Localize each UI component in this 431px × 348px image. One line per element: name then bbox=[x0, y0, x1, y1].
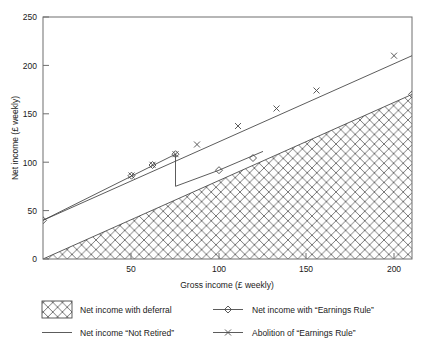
y-tick-label-50: 50 bbox=[28, 206, 38, 216]
y-tick-label-200: 200 bbox=[23, 61, 37, 71]
x-tick-label-50: 50 bbox=[126, 264, 136, 274]
y-tick-label-100: 100 bbox=[23, 158, 37, 168]
chart-svg: 250 200 150 100 50 0 50 100 150 200 Gros… bbox=[0, 0, 431, 348]
y-tick-label-250: 250 bbox=[23, 12, 37, 22]
legend-label-deferral: Net income with deferral bbox=[80, 305, 172, 315]
legend-label-abolition: Abolition of “Earnings Rule” bbox=[252, 328, 356, 338]
y-tick-label-0: 0 bbox=[32, 254, 37, 264]
chart-figure: 250 200 150 100 50 0 50 100 150 200 Gros… bbox=[0, 0, 431, 348]
x-axis-title: Gross income (£ weekly) bbox=[180, 280, 274, 290]
x-tick-label-150: 150 bbox=[299, 264, 313, 274]
y-tick-label-150: 150 bbox=[23, 109, 37, 119]
crosshatch-swatch-icon bbox=[42, 301, 72, 318]
x-tick-label-100: 100 bbox=[212, 264, 226, 274]
y-axis-title: Net income (£ weekly) bbox=[10, 96, 20, 180]
x-tick-label-200: 200 bbox=[387, 264, 401, 274]
legend-label-not-retired: Net income “Not Retired” bbox=[80, 328, 174, 338]
legend-label-earnings-rule: Net income with “Earnings Rule” bbox=[252, 305, 374, 315]
